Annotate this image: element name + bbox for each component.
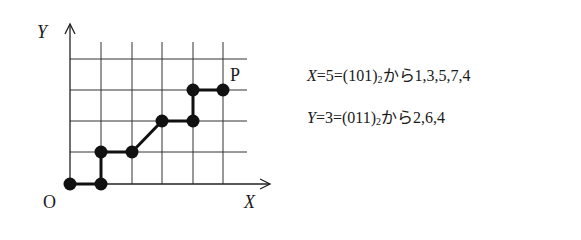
- point-p-label: P: [230, 65, 240, 86]
- grid-lines: [70, 42, 247, 184]
- lattice-path: [70, 90, 223, 184]
- equation-x: X=5=(101)2から1,3,5,7,4: [307, 62, 471, 86]
- origin-label: O: [43, 192, 56, 213]
- y-axis-label: Y: [37, 22, 47, 43]
- x-axis-label: X: [244, 192, 255, 213]
- equation-y: Y=3=(011)2から2,6,4: [307, 104, 445, 128]
- axes: [65, 24, 270, 189]
